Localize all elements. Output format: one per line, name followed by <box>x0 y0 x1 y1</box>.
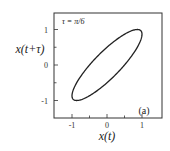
y-tick-label: -1 <box>41 97 48 106</box>
x-tick-label: 0 <box>105 121 109 130</box>
tick-labels: -101-101 <box>41 26 144 131</box>
phase-plot: τ = π/6 (a) x(t) x(t+τ) -101-101 <box>0 0 170 151</box>
panel-label: (a) <box>138 105 149 117</box>
y-tick-label: 1 <box>44 26 48 35</box>
plot-frame <box>54 13 162 118</box>
y-tick-label: 0 <box>44 61 48 70</box>
x-axis-label: x(t) <box>98 129 116 143</box>
ellipse-curve <box>72 30 142 101</box>
tau-annotation: τ = π/6 <box>62 17 85 26</box>
x-tick-label: 1 <box>140 121 144 130</box>
y-axis-label: x(t+τ) <box>14 42 44 56</box>
x-tick-label: -1 <box>69 121 76 130</box>
axis-ticks <box>54 30 142 119</box>
